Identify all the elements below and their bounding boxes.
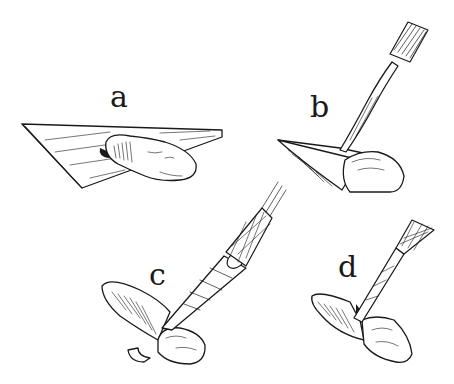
illustration: a b c d bbox=[0, 0, 454, 384]
panel-label-d: d bbox=[338, 252, 357, 282]
panel-b-tissue bbox=[343, 152, 404, 192]
panel-c-tissue bbox=[158, 328, 205, 364]
panel-label-b: b bbox=[310, 92, 329, 122]
panel-d-tissue bbox=[362, 317, 412, 362]
panel-b-tool bbox=[340, 22, 428, 152]
panel-d-tool bbox=[354, 220, 434, 322]
panel-label-a: a bbox=[110, 82, 128, 112]
panel-label-c: c bbox=[149, 260, 166, 290]
panel-c-tool bbox=[162, 182, 286, 330]
line-drawing bbox=[0, 0, 454, 384]
